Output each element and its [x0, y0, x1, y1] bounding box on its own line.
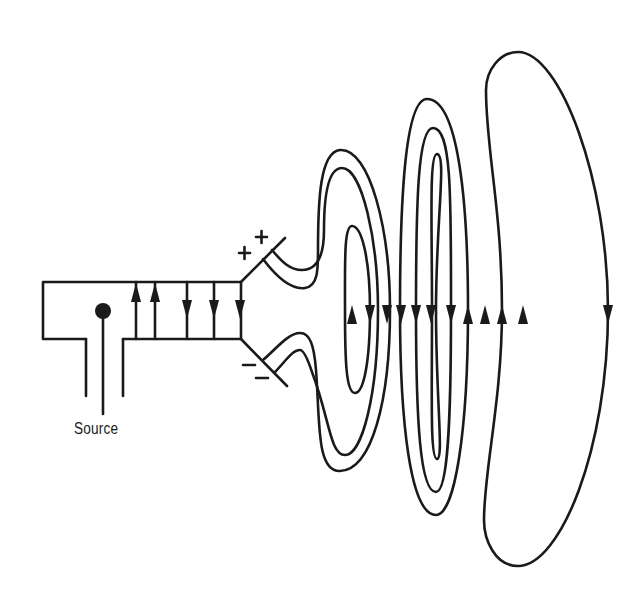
arrow-down-icon [603, 305, 613, 324]
arrow-up-icon [150, 283, 160, 302]
arrow-down-icon [182, 300, 192, 319]
arrow-up-icon [497, 305, 507, 324]
plus-sign-icon [239, 231, 267, 259]
arrow-up-icon [131, 283, 141, 302]
horn-plates [239, 231, 287, 386]
source-label: Source [74, 420, 118, 438]
waveguide-field-lines [131, 282, 245, 339]
horn-antenna-diagram [0, 0, 642, 599]
arrow-up-icon [463, 305, 473, 324]
arrow-up-icon [480, 305, 490, 324]
minus-sign-icon [243, 365, 268, 378]
arrow-down-icon [235, 300, 245, 319]
arrow-up-icon [347, 305, 357, 324]
arrow-down-icon [209, 300, 219, 319]
arrow-up-icon [518, 305, 528, 324]
arrow-down-icon [365, 305, 375, 324]
radiated-field-arrows [347, 305, 613, 324]
arrow-down-icon [446, 305, 456, 324]
arrow-down-icon [396, 305, 406, 324]
waveguide [43, 282, 245, 414]
arrow-down-icon [426, 305, 436, 324]
arrow-down-icon [411, 305, 421, 324]
probe-dot-icon [95, 303, 111, 319]
